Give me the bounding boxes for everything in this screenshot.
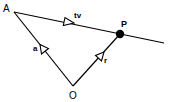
vector-r-segment [73, 34, 120, 86]
line-through-a-and-p [14, 12, 164, 43]
label-point-a: A [3, 3, 10, 14]
arrowhead-a-icon [40, 45, 49, 55]
label-point-p: P [121, 19, 127, 29]
label-point-o: O [69, 90, 77, 101]
label-vector-r: r [104, 56, 107, 65]
vector-line-diagram: A P O tv a r [0, 0, 176, 102]
point-p-dot [116, 30, 124, 38]
label-vector-tv: tv [74, 11, 82, 20]
label-vector-a: a [33, 44, 38, 53]
